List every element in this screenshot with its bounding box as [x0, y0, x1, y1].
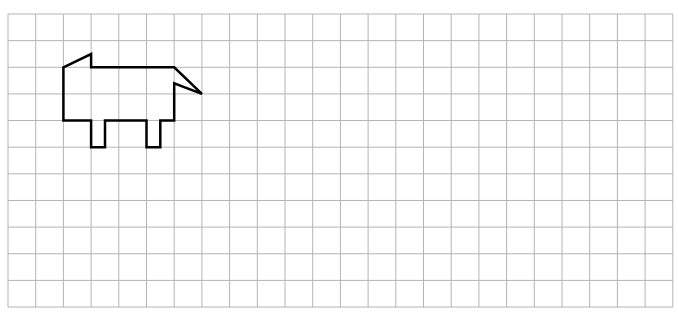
- grid-diagram: [0, 0, 678, 318]
- animal-figure-outline: [63, 54, 202, 147]
- grid-lines: [8, 14, 673, 307]
